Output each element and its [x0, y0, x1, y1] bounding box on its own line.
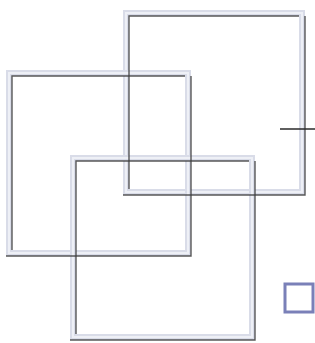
- square-bottom-center: [73, 158, 252, 337]
- diagram-canvas: [0, 0, 315, 343]
- squares-group: [6, 13, 305, 340]
- square-top-right-edge-lines: [123, 16, 305, 195]
- square-middle-left: [9, 73, 188, 253]
- square-middle-left-edge-lines: [6, 76, 191, 256]
- square-top-right: [126, 13, 302, 192]
- small-square-icon: [285, 284, 313, 312]
